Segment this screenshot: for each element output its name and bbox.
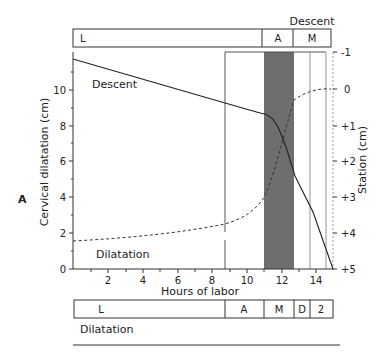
top-seg-A: A	[275, 33, 282, 44]
y2-tick-p2: +2	[341, 156, 356, 167]
y-tick-2: 2	[60, 228, 66, 239]
y-tick-6: 6	[60, 156, 66, 167]
y-axis-label: Cervical dilatation (cm)	[38, 98, 51, 227]
bottom-phase-bar: L A M D 2	[74, 300, 333, 318]
descent-curve-label: Descent	[92, 78, 138, 91]
panel-label: A	[18, 193, 27, 206]
y2-tick-0: 0	[344, 84, 350, 95]
top-phase-bar: L A M	[73, 29, 331, 47]
x-tick-10: 10	[241, 275, 254, 286]
bottom-seg-L: L	[98, 304, 104, 315]
y-tick-10: 10	[53, 85, 66, 96]
y2-tick-m1: -1	[341, 47, 351, 58]
bottom-seg-A: A	[241, 304, 248, 315]
x-tick-14: 14	[310, 275, 323, 286]
x-tick-12: 12	[276, 275, 289, 286]
x-tick-2: 2	[105, 275, 111, 286]
right-y-ticks	[333, 52, 337, 269]
bottom-seg-M: M	[275, 304, 284, 315]
y2-tick-p4: +4	[341, 228, 356, 239]
bottom-bar-title: Dilatation	[80, 323, 133, 336]
bottom-seg-D: D	[298, 304, 306, 315]
top-seg-L: L	[80, 33, 86, 44]
y-tick-4: 4	[60, 192, 66, 203]
x-tick-4: 4	[140, 275, 146, 286]
x-ticks	[91, 269, 316, 273]
top-bar-title: Descent	[289, 15, 335, 28]
y2-tick-p3: +3	[341, 192, 356, 203]
y-tick-8: 8	[60, 121, 66, 132]
x-axis-label: Hours of labor	[161, 285, 239, 298]
y2-tick-p5: +5	[341, 264, 356, 275]
y-tick-0: 0	[60, 264, 66, 275]
shaded-active-region	[264, 52, 294, 269]
bottom-seg-2: 2	[318, 304, 324, 315]
y2-tick-p1: +1	[341, 121, 356, 132]
left-y-ticks	[69, 72, 73, 269]
y2-axis-label: Station (cm)	[356, 126, 369, 194]
top-seg-M: M	[308, 33, 317, 44]
dilatation-curve-label: Dilatation	[96, 248, 149, 261]
labor-curve-chart: Descent L A M 0 2	[0, 0, 389, 357]
